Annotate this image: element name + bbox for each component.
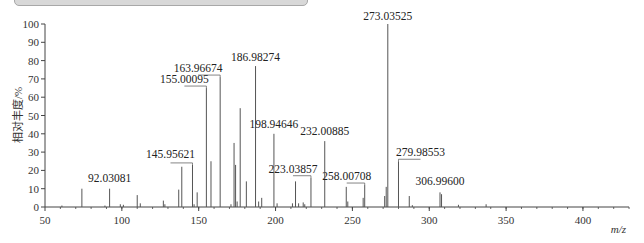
peak-label: 198.94646	[249, 118, 298, 130]
peak-label: 92.03081	[88, 172, 131, 184]
y-tick-label: 0	[34, 201, 40, 213]
x-tick-label: 400	[575, 214, 592, 226]
x-tick-label: 250	[344, 214, 361, 226]
peak-labels: 92.03081145.95621155.00095163.96674186.9…	[88, 10, 465, 187]
peak-label: 232.00885	[300, 125, 349, 137]
axes: 0102030405060708090100501001502002503003…	[23, 18, 630, 226]
y-tick-label: 10	[28, 183, 40, 195]
y-tick-label: 30	[28, 146, 40, 158]
y-tick-label: 60	[28, 91, 40, 103]
x-tick-label: 350	[498, 214, 515, 226]
peak-label: 258.00708	[322, 170, 371, 182]
peak-label: 223.03857	[269, 163, 318, 175]
y-tick-label: 40	[28, 128, 40, 140]
x-tick-label: 200	[267, 214, 284, 226]
y-tick-label: 90	[28, 36, 40, 48]
y-tick-label: 50	[28, 110, 40, 122]
y-tick-label: 100	[23, 18, 40, 30]
peak-label: 163.96674	[174, 62, 223, 74]
x-axis-label: m/z	[611, 223, 627, 235]
y-tick-label: 20	[28, 164, 40, 176]
mass-spectrum-chart: 0102030405060708090100501001502002503003…	[0, 0, 644, 243]
y-axis-label: 相对丰度/%	[11, 87, 24, 143]
peak-label: 306.99600	[416, 175, 465, 187]
peak-label: 279.98553	[396, 146, 445, 158]
x-tick-label: 100	[114, 214, 131, 226]
peak-label: 186.98274	[231, 51, 280, 63]
peak-label: 273.03525	[363, 10, 412, 22]
x-tick-label: 300	[421, 214, 438, 226]
x-tick-label: 150	[190, 214, 207, 226]
y-tick-label: 80	[28, 55, 40, 67]
y-tick-label: 70	[28, 73, 40, 85]
peak-label: 145.95621	[146, 148, 195, 160]
x-tick-label: 50	[40, 214, 52, 226]
